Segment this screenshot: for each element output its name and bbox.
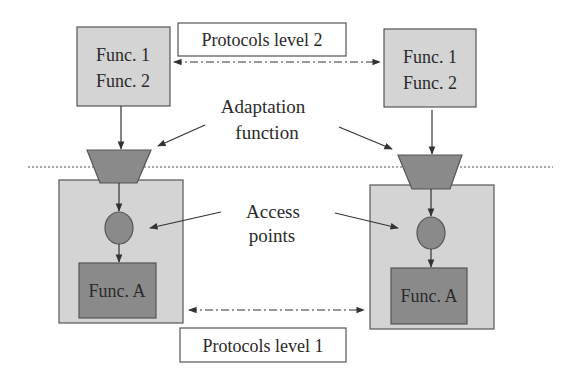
- diagram-canvas: Func. 1 Func. 2 Func. 1 Func. 2 Protocol…: [0, 0, 576, 379]
- right-func-a-box: Func. A: [391, 268, 467, 324]
- top-left-function-box: Func. 1 Func. 2: [77, 27, 170, 106]
- protocols-level-2-box: Protocols level 2: [178, 23, 346, 56]
- protocols-level-2-label: Protocols level 2: [202, 30, 323, 50]
- left-access-point-circle: [105, 212, 133, 244]
- protocols-level-1-label: Protocols level 1: [203, 336, 324, 356]
- access-label-line1: Access: [246, 201, 300, 222]
- top-right-func2-label: Func. 2: [403, 73, 457, 93]
- left-func-a-box: Func. A: [79, 263, 156, 318]
- right-adaptation-trapezoid: [398, 155, 462, 189]
- top-left-func2-label: Func. 2: [96, 71, 150, 91]
- adaptation-label-line1: Adaptation: [221, 96, 306, 117]
- adaptation-pointer-right: [339, 127, 392, 149]
- top-left-func1-label: Func. 1: [96, 45, 150, 65]
- adaptation-pointer-left: [158, 125, 205, 146]
- top-right-func1-label: Func. 1: [403, 47, 457, 67]
- left-adaptation-trapezoid: [87, 150, 151, 183]
- access-label-line2: points: [249, 225, 295, 246]
- left-func-a-label: Func. A: [88, 281, 145, 301]
- protocols-level-1-box: Protocols level 1: [180, 328, 346, 362]
- right-func-a-label: Func. A: [400, 286, 457, 306]
- adaptation-label-line2: function: [235, 122, 299, 143]
- top-right-function-box: Func. 1 Func. 2: [384, 29, 476, 107]
- right-access-point-circle: [417, 217, 445, 249]
